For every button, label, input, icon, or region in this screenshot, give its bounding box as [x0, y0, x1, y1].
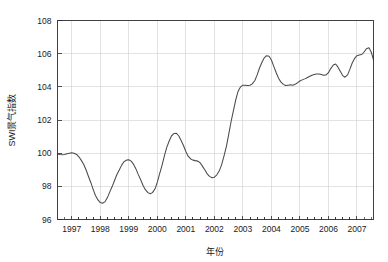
x-tick-label: 2007	[347, 224, 366, 234]
gridlines	[58, 21, 374, 220]
x-tick-label: 2000	[148, 224, 167, 234]
y-tick-label: 108	[37, 16, 51, 26]
data-series-group	[58, 48, 374, 203]
y-axis-title: SWI景气指数	[6, 94, 17, 147]
swi-prosperity-index-line-chart: 9698100102104106108 19971998199920002001…	[0, 0, 388, 262]
y-tick-label: 96	[42, 215, 52, 225]
x-tick-label: 2005	[290, 224, 309, 234]
x-tick-label: 2004	[262, 224, 281, 234]
x-tick-label: 2002	[205, 224, 224, 234]
y-tick-label: 102	[37, 115, 51, 125]
x-tick-label: 1999	[119, 224, 138, 234]
y-tick-label: 104	[37, 82, 51, 92]
series-line-swi-index	[58, 48, 374, 203]
x-axis-tick-labels: 1997199819992000200120022003200420052006…	[62, 224, 366, 234]
chart-figure: 9698100102104106108 19971998199920002001…	[0, 0, 388, 262]
x-tick-label: 1998	[91, 224, 110, 234]
x-axis-title: 年份	[206, 246, 224, 257]
y-tick-label: 106	[37, 49, 51, 59]
y-tick-label: 98	[42, 181, 52, 191]
y-tick-label: 100	[37, 148, 51, 158]
y-axis-tick-labels: 9698100102104106108	[37, 16, 51, 225]
x-tick-label: 2003	[233, 224, 252, 234]
x-tick-label: 2001	[176, 224, 195, 234]
x-tick-label: 1997	[62, 224, 81, 234]
x-tick-label: 2006	[319, 224, 338, 234]
